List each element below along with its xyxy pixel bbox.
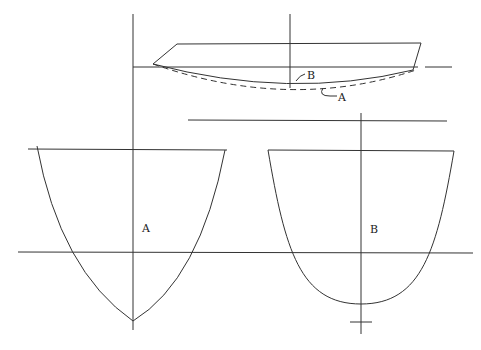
- hull-diagram: B A A B: [0, 0, 481, 350]
- leader-a: [322, 88, 337, 96]
- section-b: B: [268, 113, 454, 334]
- profile-curve-a: [153, 64, 416, 90]
- section-a-port-side: [37, 146, 133, 321]
- label-a-profile: A: [337, 91, 347, 104]
- label-section-a: A: [141, 222, 151, 235]
- section-waterline: [18, 252, 473, 253]
- label-b-profile: B: [307, 69, 315, 82]
- section-a-starboard-side: [133, 150, 225, 321]
- reference-line: [188, 120, 447, 121]
- section-a: A: [28, 146, 227, 321]
- section-b-deckline: [268, 150, 454, 151]
- section-a-deckline: [28, 149, 227, 150]
- leader-b: [296, 74, 305, 81]
- profile-view: B A: [133, 14, 452, 330]
- label-section-b: B: [370, 223, 378, 236]
- hull-topsides: [153, 43, 421, 70]
